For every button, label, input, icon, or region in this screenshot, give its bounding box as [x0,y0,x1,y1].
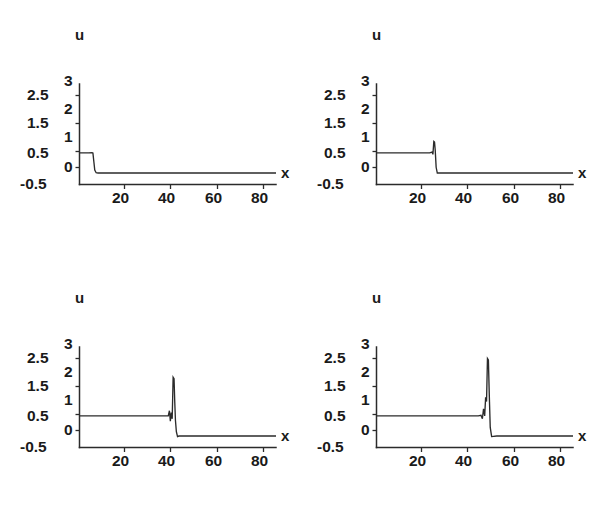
y-tick-label-2p5: 2.5 [27,349,49,366]
y-tick-label-2p5: 2.5 [324,349,346,366]
x-tick-label-40: 40 [455,452,472,469]
x-tick-label-20: 20 [112,189,129,206]
y-tick-label-0p5: 0.5 [27,144,49,161]
plot-panel-bottom-left: u 3 2.5 2 1.5 1 0.5 0 -0.5 [0,263,300,525]
data-curve-bottom-right [377,358,574,436]
y-tick-label-0: 0 [361,421,370,438]
y-tick-label-neg0p5: -0.5 [20,175,47,192]
plot-panel-top-right: u 3 2.5 2 1.5 1 0.5 0 -0.5 [297,0,597,262]
x-tick-label-40: 40 [158,452,175,469]
x-tick-label-80: 80 [251,189,268,206]
y-tick-label-0: 0 [64,158,73,175]
plot-panel-top-left: u 3 2.5 2 1.5 1 0.5 0 -0.5 [0,0,300,262]
figure-root: u 3 2.5 2 1.5 1 0.5 0 -0.5 [0,0,600,525]
y-tick-label-2: 2 [64,363,73,380]
y-tick-label-3: 3 [361,335,370,352]
data-curve-top-left [80,153,277,173]
y-tick-label-0p5: 0.5 [324,144,346,161]
y-tick-label-2p5: 2.5 [27,86,49,103]
plot-svg-top-right: u 3 2.5 2 1.5 1 0.5 0 -0.5 [297,0,597,262]
y-axis-name-label: u [372,289,381,306]
y-tick-label-1p5: 1.5 [27,114,49,131]
plot-svg-top-left: u 3 2.5 2 1.5 1 0.5 0 -0.5 [0,0,300,262]
x-tick-label-40: 40 [158,189,175,206]
y-tick-label-1p5: 1.5 [324,377,346,394]
y-tick-label-neg0p5: -0.5 [317,438,344,455]
y-tick-label-0: 0 [361,158,370,175]
plot-panel-bottom-right: u 3 2.5 2 1.5 1 0.5 0 -0.5 [297,263,597,525]
x-tick-label-60: 60 [205,189,222,206]
y-tick-label-1p5: 1.5 [27,377,49,394]
x-tick-label-20: 20 [112,452,129,469]
x-tick-label-60: 60 [205,452,222,469]
y-tick-label-2: 2 [361,100,370,117]
y-tick-label-3: 3 [64,72,73,89]
plot-svg-bottom-left: u 3 2.5 2 1.5 1 0.5 0 -0.5 [0,263,300,525]
y-tick-label-1: 1 [64,391,73,408]
y-axis-name-label: u [372,26,381,43]
y-tick-label-1: 1 [64,128,73,145]
x-tick-label-80: 80 [251,452,268,469]
y-tick-label-0p5: 0.5 [27,407,49,424]
data-curve-top-right [377,141,574,173]
y-tick-label-2: 2 [64,100,73,117]
y-tick-label-2p5: 2.5 [324,86,346,103]
y-tick-label-3: 3 [361,72,370,89]
y-tick-label-neg0p5: -0.5 [20,438,47,455]
data-curve-bottom-left [80,377,277,436]
y-axis-name-label: u [75,289,84,306]
x-tick-label-60: 60 [502,452,519,469]
x-tick-label-20: 20 [409,189,426,206]
y-tick-label-0: 0 [64,421,73,438]
x-axis-name-label: x [281,164,290,181]
x-axis-name-label: x [578,164,587,181]
y-axis-name-label: u [75,26,84,43]
x-axis-name-label: x [578,427,587,444]
y-tick-label-0p5: 0.5 [324,407,346,424]
x-axis-name-label: x [281,427,290,444]
y-tick-label-1: 1 [361,128,370,145]
y-tick-label-neg0p5: -0.5 [317,175,344,192]
x-tick-label-20: 20 [409,452,426,469]
x-tick-label-80: 80 [548,189,565,206]
x-tick-label-40: 40 [455,189,472,206]
y-tick-label-2: 2 [361,363,370,380]
x-tick-label-80: 80 [548,452,565,469]
y-tick-label-1p5: 1.5 [324,114,346,131]
y-tick-label-1: 1 [361,391,370,408]
x-tick-label-60: 60 [502,189,519,206]
plot-svg-bottom-right: u 3 2.5 2 1.5 1 0.5 0 -0.5 [297,263,597,525]
y-tick-label-3: 3 [64,335,73,352]
